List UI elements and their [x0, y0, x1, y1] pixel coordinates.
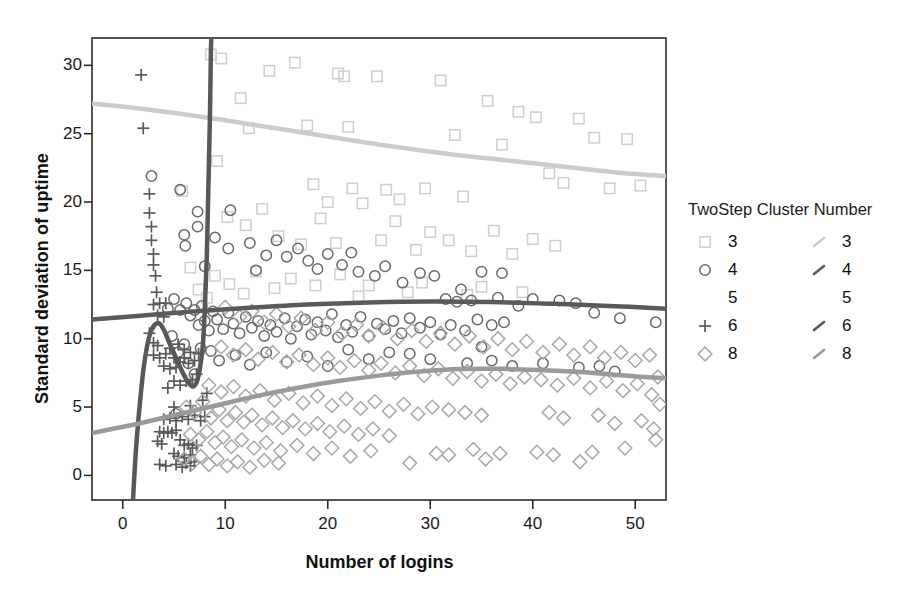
- data-point: [372, 71, 382, 81]
- data-point: [257, 315, 271, 329]
- data-point: [148, 248, 160, 260]
- data-point: [353, 291, 363, 301]
- series-8: [177, 300, 666, 474]
- legend-row[interactable]: 66: [688, 312, 916, 340]
- data-point: [331, 238, 341, 248]
- data-point: [647, 422, 661, 436]
- data-point: [645, 388, 659, 402]
- data-point: [170, 458, 182, 470]
- data-point: [214, 355, 224, 365]
- data-point: [333, 332, 343, 342]
- data-point: [475, 374, 489, 388]
- data-point: [403, 287, 413, 297]
- data-point: [224, 279, 234, 289]
- data-point: [315, 213, 325, 223]
- data-point: [223, 243, 233, 253]
- data-point: [604, 183, 614, 193]
- data-point: [380, 261, 390, 271]
- legend-fitline-glyph: [802, 341, 836, 367]
- data-point: [239, 288, 249, 298]
- legend-marker-label: 3: [722, 232, 737, 252]
- data-point: [179, 230, 189, 240]
- data-point: [489, 226, 499, 236]
- data-point: [442, 403, 456, 417]
- data-point: [614, 346, 628, 360]
- data-point: [479, 452, 493, 466]
- data-point: [327, 309, 337, 319]
- legend-marker-entry[interactable]: 5: [688, 285, 802, 311]
- legend-fitline-entry[interactable]: 3: [802, 229, 916, 255]
- legend-fitline-label: 6: [836, 316, 851, 336]
- data-point: [343, 122, 353, 132]
- data-point: [503, 377, 517, 391]
- data-point: [339, 71, 349, 81]
- data-point: [160, 460, 172, 472]
- data-point: [307, 358, 321, 372]
- data-point: [405, 313, 415, 323]
- data-point: [531, 112, 541, 122]
- data-point: [450, 130, 460, 140]
- legend-marker-entry[interactable]: 6: [688, 313, 802, 339]
- data-point: [355, 312, 365, 322]
- data-point: [364, 444, 378, 458]
- data-point: [298, 422, 312, 436]
- data-point: [208, 436, 222, 450]
- data-point: [274, 444, 288, 458]
- x-tick-label: 0: [118, 514, 127, 534]
- x-tick-label: 10: [216, 514, 235, 534]
- legend-row[interactable]: 44: [688, 256, 916, 284]
- legend-fitline-entry[interactable]: 6: [802, 313, 916, 339]
- data-point: [425, 354, 435, 364]
- data-point: [251, 352, 265, 366]
- data-point: [257, 453, 271, 467]
- legend-fitline-glyph: [802, 313, 836, 339]
- data-point: [476, 267, 486, 277]
- data-point: [348, 354, 362, 368]
- data-point: [635, 414, 649, 428]
- legend-fitline-entry[interactable]: 8: [802, 341, 916, 367]
- data-point: [446, 320, 456, 330]
- data-point: [168, 401, 180, 413]
- data-point: [241, 220, 251, 230]
- legend-marker-entry[interactable]: 3: [688, 229, 802, 255]
- data-point: [653, 397, 667, 411]
- data-point: [352, 428, 366, 442]
- x-axis-title: Number of logins: [92, 552, 667, 573]
- data-point: [550, 241, 560, 251]
- data-point: [354, 402, 368, 416]
- data-point: [228, 318, 238, 328]
- legend-marker-none-icon: [692, 287, 718, 309]
- data-point: [180, 241, 190, 251]
- data-point: [651, 317, 661, 327]
- data-point: [323, 425, 337, 439]
- data-point: [162, 382, 174, 394]
- legend-marker-entry[interactable]: 8: [688, 341, 802, 367]
- data-point: [608, 417, 622, 431]
- legend-row[interactable]: 88: [688, 340, 916, 368]
- axis-ticks: [84, 65, 635, 509]
- legend-fitline-icon: [806, 343, 832, 365]
- legend-marker-entry[interactable]: 4: [688, 257, 802, 283]
- legend-row[interactable]: 55: [688, 284, 916, 312]
- data-point: [425, 400, 439, 414]
- legend-row[interactable]: 33: [688, 228, 916, 256]
- data-point: [528, 234, 538, 244]
- data-point: [628, 354, 642, 368]
- data-point: [425, 317, 435, 327]
- legend-fitline-entry[interactable]: 5: [802, 285, 916, 311]
- data-point: [247, 441, 261, 455]
- data-point: [476, 342, 486, 352]
- legend-marker-square-icon: [692, 231, 718, 253]
- data-point: [214, 385, 228, 399]
- data-point: [534, 373, 548, 387]
- y-tick-label: 5: [38, 397, 82, 417]
- data-point: [151, 286, 163, 298]
- data-point: [384, 347, 394, 357]
- data-point: [145, 234, 157, 246]
- data-point: [237, 415, 251, 429]
- legend-fitline-entry[interactable]: 4: [802, 257, 916, 283]
- data-point: [333, 361, 347, 375]
- data-point: [323, 197, 333, 207]
- data-point: [585, 445, 599, 459]
- data-point: [517, 287, 527, 297]
